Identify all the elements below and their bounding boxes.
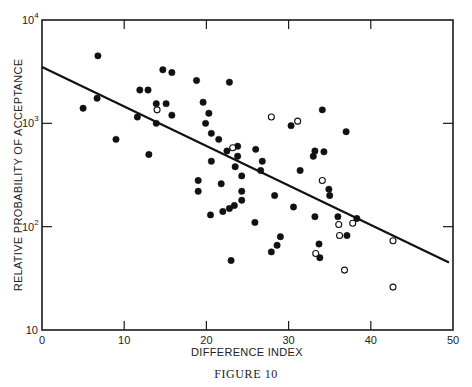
open-data-point: [390, 284, 396, 290]
filled-data-point: [319, 107, 325, 113]
filled-data-point: [134, 114, 140, 120]
filled-data-point: [321, 149, 327, 155]
x-tick-label: 40: [365, 334, 377, 346]
filled-data-point: [239, 188, 245, 194]
filled-data-point: [297, 167, 303, 173]
y-axis-ticks: 10102103104: [22, 11, 453, 336]
filled-data-point: [202, 120, 208, 126]
filled-data-point: [95, 53, 101, 59]
x-tick-label: 30: [282, 334, 294, 346]
filled-data-point: [195, 188, 201, 194]
filled-data-point: [208, 158, 214, 164]
filled-data-point: [231, 202, 237, 208]
filled-data-point: [271, 192, 277, 198]
x-axis-title: DIFFERENCE INDEX: [191, 346, 303, 358]
filled-data-point: [193, 77, 199, 83]
filled-data-point: [153, 120, 159, 126]
filled-data-point: [343, 128, 349, 134]
filled-data-point: [232, 164, 238, 170]
filled-data-point: [146, 151, 152, 157]
open-data-point: [337, 233, 343, 239]
filled-data-point: [312, 148, 318, 154]
filled-data-point: [94, 95, 100, 101]
y-tick-label: 102: [22, 218, 39, 233]
filled-data-point: [169, 69, 175, 75]
filled-data-point: [224, 148, 230, 154]
filled-data-point: [160, 67, 166, 73]
fit-line: [42, 67, 449, 262]
filled-data-point: [137, 87, 143, 93]
filled-data-point: [80, 105, 86, 111]
filled-data-point: [268, 249, 274, 255]
filled-data-point: [169, 112, 175, 118]
filled-data-point: [218, 181, 224, 187]
plot-border: [42, 20, 453, 330]
filled-data-point: [153, 100, 159, 106]
plot-frame: [42, 20, 453, 330]
filled-data-point: [335, 213, 341, 219]
filled-data-point: [226, 79, 232, 85]
x-tick-label: 10: [118, 334, 130, 346]
open-data-point: [313, 250, 319, 256]
filled-data-point: [290, 204, 296, 210]
filled-data-point: [257, 167, 263, 173]
filled-data-point: [327, 192, 333, 198]
filled-data-point: [326, 186, 332, 192]
open-data-point: [336, 221, 342, 227]
open-data-point: [154, 107, 160, 113]
open-data-point: [268, 114, 274, 120]
filled-data-point: [316, 241, 322, 247]
open-data-point: [295, 118, 301, 124]
open-data-point: [350, 220, 356, 226]
y-axis-title: RELATIVE PROBABILITY OF ACCEPTANCE: [12, 59, 24, 292]
filled-data-point: [253, 146, 259, 152]
x-axis-ticks: 01020304050: [39, 20, 459, 346]
filled-data-point: [277, 233, 283, 239]
filled-data-point: [344, 232, 350, 238]
filled-data-point: [259, 158, 265, 164]
open-data-point: [319, 177, 325, 183]
filled-data-point: [195, 177, 201, 183]
filled-data-point: [216, 136, 222, 142]
open-data-point: [390, 238, 396, 244]
filled-data-point: [252, 219, 258, 225]
filled-data-point: [113, 136, 119, 142]
y-tick-label: 10: [26, 324, 38, 336]
filled-data-point: [239, 173, 245, 179]
figure-caption: FIGURE 10: [214, 367, 278, 381]
filled-data-point: [312, 213, 318, 219]
filled-data-point: [274, 242, 280, 248]
y-tick-label: 104: [22, 11, 39, 26]
scatter-chart: 01020304050 10102103104 DIFFERENCE INDEX…: [0, 0, 472, 387]
filled-data-point: [206, 110, 212, 116]
x-tick-label: 0: [39, 334, 45, 346]
filled-data-point: [208, 130, 214, 136]
filled-data-point: [234, 153, 240, 159]
filled-data-point: [220, 208, 226, 214]
x-tick-label: 20: [200, 334, 212, 346]
x-tick-label: 50: [447, 334, 459, 346]
regression-line: [42, 67, 449, 262]
filled-data-point: [239, 197, 245, 203]
filled-data-point: [228, 257, 234, 263]
open-data-point: [230, 145, 236, 151]
filled-data-point: [145, 87, 151, 93]
open-data-point: [341, 267, 347, 273]
y-tick-label: 103: [22, 114, 39, 129]
filled-data-point: [163, 100, 169, 106]
filled-data-point: [288, 122, 294, 128]
filled-data-point: [207, 212, 213, 218]
filled-points: [80, 53, 360, 264]
filled-data-point: [200, 99, 206, 105]
